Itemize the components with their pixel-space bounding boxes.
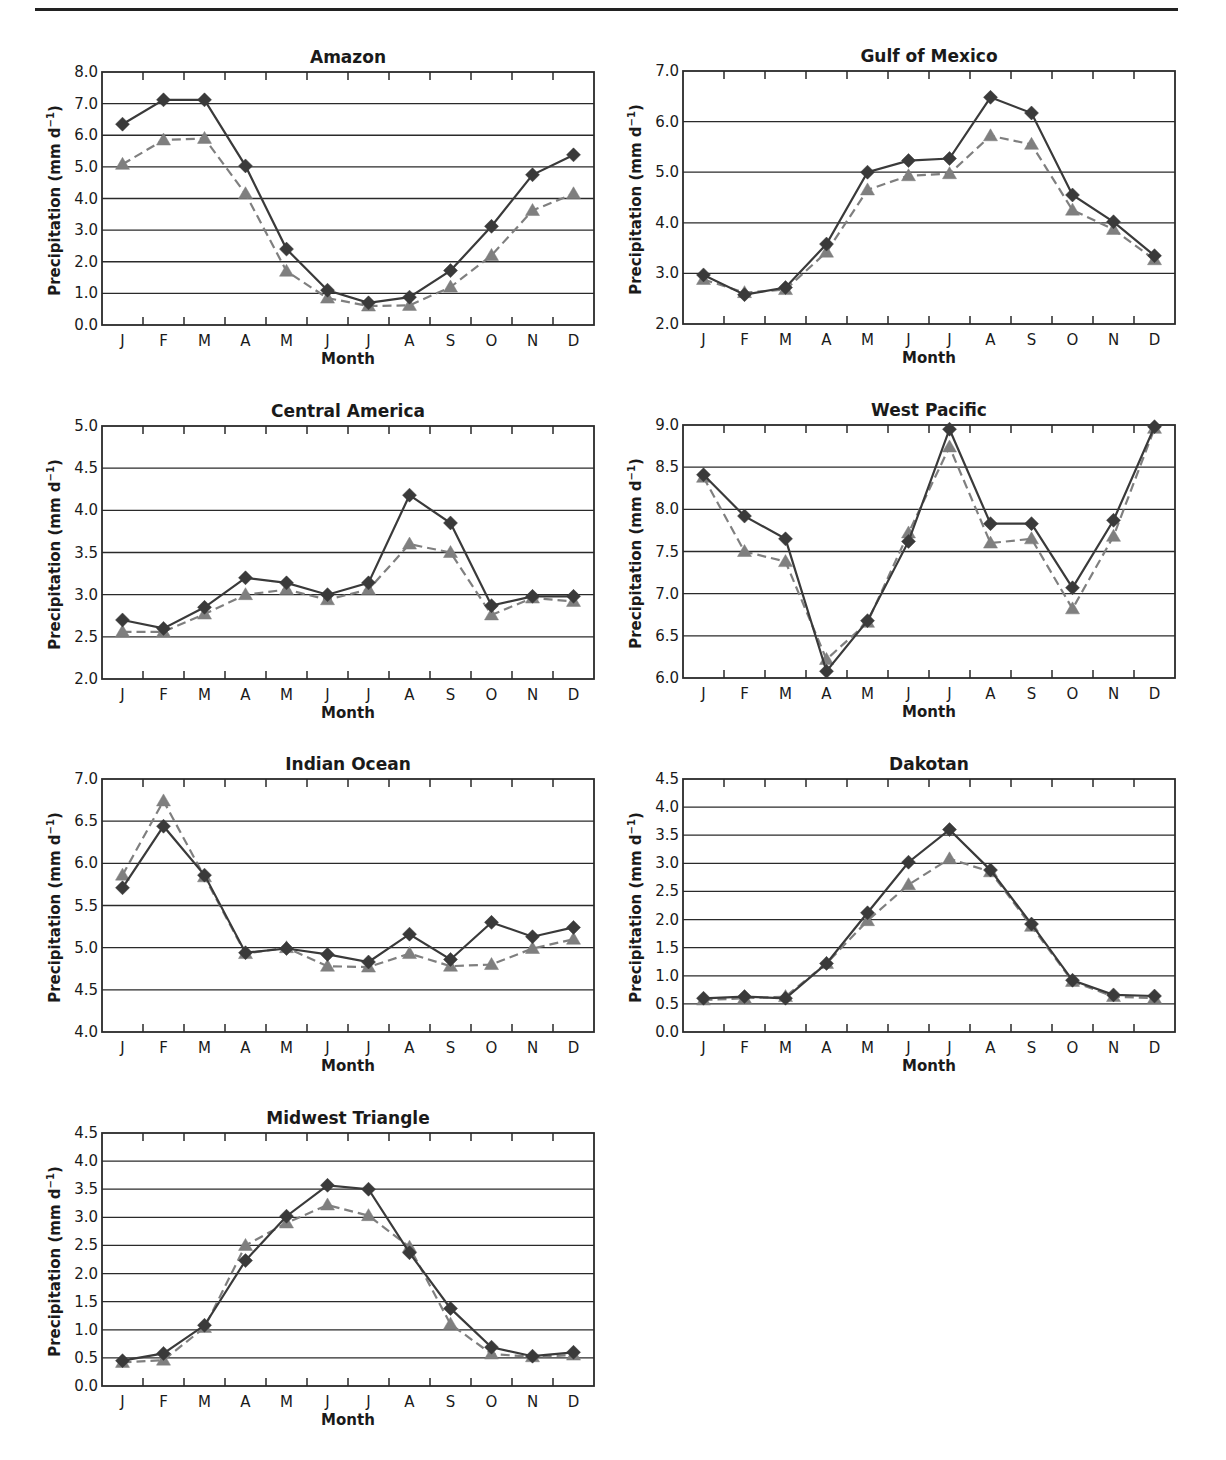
svg-text:7.5: 7.5: [655, 543, 679, 561]
chart-amazon: Amazon0.01.02.03.04.05.06.07.08.0JFMAMJJ…: [0, 38, 600, 388]
chart-midwest-triangle: Midwest Triangle0.00.51.01.52.02.53.03.5…: [0, 1099, 600, 1449]
svg-text:4.0: 4.0: [655, 214, 679, 232]
gridlines: [102, 104, 594, 294]
svg-text:A: A: [985, 331, 996, 349]
triangle-marker: [567, 187, 581, 199]
svg-text:N: N: [1108, 331, 1119, 349]
svg-text:4.5: 4.5: [655, 770, 679, 788]
svg-text:3.0: 3.0: [74, 221, 98, 239]
svg-text:S: S: [446, 1393, 456, 1411]
y-tick-labels: 0.00.51.01.52.02.53.03.54.04.5: [74, 1124, 98, 1395]
svg-text:8.0: 8.0: [655, 500, 679, 518]
gridlines: [683, 807, 1175, 1004]
svg-text:0.0: 0.0: [655, 1023, 679, 1041]
y-tick-labels: 2.02.53.03.54.04.55.0: [74, 417, 98, 688]
svg-text:2.5: 2.5: [74, 1236, 98, 1254]
svg-text:J: J: [119, 1393, 124, 1411]
diamond-marker: [198, 93, 212, 107]
diamond-marker: [697, 268, 711, 282]
svg-text:4.5: 4.5: [74, 459, 98, 477]
svg-text:A: A: [404, 1393, 415, 1411]
svg-text:3.5: 3.5: [74, 544, 98, 562]
chart-indian-ocean: Indian Ocean4.04.55.05.56.06.57.0JFMAMJJ…: [0, 745, 600, 1095]
svg-text:O: O: [486, 1393, 498, 1411]
svg-text:J: J: [700, 685, 705, 703]
svg-text:4.0: 4.0: [74, 501, 98, 519]
chart-gulf-of-mexico: Gulf of Mexico2.03.04.05.06.07.0JFMAMJJA…: [581, 37, 1181, 387]
svg-text:F: F: [159, 1393, 168, 1411]
svg-text:A: A: [240, 686, 251, 704]
x-tick-labels: JFMAMJJASOND: [700, 685, 1160, 703]
svg-text:1.5: 1.5: [74, 1293, 98, 1311]
gridlines: [102, 468, 594, 637]
y-tick-labels: 0.00.51.01.52.02.53.03.54.04.5: [655, 770, 679, 1041]
svg-text:5.5: 5.5: [74, 897, 98, 915]
svg-text:M: M: [861, 685, 874, 703]
svg-text:O: O: [486, 686, 498, 704]
svg-text:5.0: 5.0: [655, 163, 679, 181]
y-tick-labels: 0.01.02.03.04.05.06.07.08.0: [74, 63, 98, 334]
svg-text:0.0: 0.0: [74, 316, 98, 334]
diamond-marker: [239, 571, 253, 585]
series-solid-diamond: [697, 420, 1162, 679]
triangle-marker: [1066, 602, 1080, 614]
svg-text:M: M: [198, 1393, 211, 1411]
plot-frame: [683, 779, 1175, 1032]
y-axis-label: Precipitation (mm d−1): [45, 459, 64, 650]
svg-text:J: J: [324, 332, 329, 350]
svg-text:N: N: [1108, 685, 1119, 703]
diamond-marker: [485, 599, 499, 613]
svg-text:S: S: [1027, 685, 1037, 703]
triangle-marker: [116, 157, 130, 169]
diamond-marker: [321, 588, 335, 602]
svg-text:6.5: 6.5: [655, 627, 679, 645]
svg-text:M: M: [280, 1393, 293, 1411]
svg-text:F: F: [159, 1039, 168, 1057]
svg-text:F: F: [740, 1039, 749, 1057]
svg-text:M: M: [861, 331, 874, 349]
svg-text:F: F: [740, 685, 749, 703]
triangle-marker: [116, 868, 130, 880]
diamond-marker: [984, 517, 998, 531]
svg-text:4.0: 4.0: [74, 1152, 98, 1170]
x-tick-labels: JFMAMJJASOND: [119, 686, 579, 704]
svg-text:S: S: [1027, 1039, 1037, 1057]
diamond-marker: [861, 165, 875, 179]
svg-text:S: S: [446, 686, 456, 704]
triangle-marker: [1107, 529, 1121, 541]
svg-text:D: D: [568, 332, 580, 350]
triangle-marker: [1066, 203, 1080, 215]
x-axis-label: Month: [902, 1057, 956, 1075]
diamond-marker: [567, 920, 581, 934]
svg-text:F: F: [159, 332, 168, 350]
y-axis-label: Precipitation (mm d−1): [45, 1166, 64, 1357]
svg-text:4.5: 4.5: [74, 981, 98, 999]
y-axis-label: Precipitation (mm d−1): [626, 812, 645, 1003]
svg-text:3.5: 3.5: [655, 826, 679, 844]
svg-text:J: J: [365, 1039, 370, 1057]
triangle-marker: [239, 588, 253, 600]
svg-text:A: A: [240, 332, 251, 350]
svg-text:F: F: [159, 686, 168, 704]
svg-text:2.0: 2.0: [655, 315, 679, 333]
svg-text:A: A: [985, 685, 996, 703]
svg-text:N: N: [527, 332, 538, 350]
plot-frame: [683, 71, 1175, 324]
diamond-marker: [1025, 106, 1039, 120]
chart-west-pacific: West Pacific6.06.57.07.58.08.59.0JFMAMJJ…: [581, 391, 1181, 741]
svg-text:5.0: 5.0: [74, 417, 98, 435]
svg-text:N: N: [1108, 1039, 1119, 1057]
svg-text:5.0: 5.0: [74, 939, 98, 957]
svg-text:J: J: [119, 686, 124, 704]
svg-text:2.0: 2.0: [655, 911, 679, 929]
svg-text:J: J: [119, 332, 124, 350]
gridlines: [683, 467, 1175, 636]
diamond-marker: [779, 532, 793, 546]
svg-text:2.0: 2.0: [74, 670, 98, 688]
svg-text:D: D: [568, 686, 580, 704]
chart-dakotan: Dakotan0.00.51.01.52.02.53.03.54.04.5JFM…: [581, 745, 1181, 1095]
svg-text:M: M: [861, 1039, 874, 1057]
svg-text:M: M: [198, 1039, 211, 1057]
svg-text:7.0: 7.0: [74, 770, 98, 788]
svg-text:8.0: 8.0: [74, 63, 98, 81]
